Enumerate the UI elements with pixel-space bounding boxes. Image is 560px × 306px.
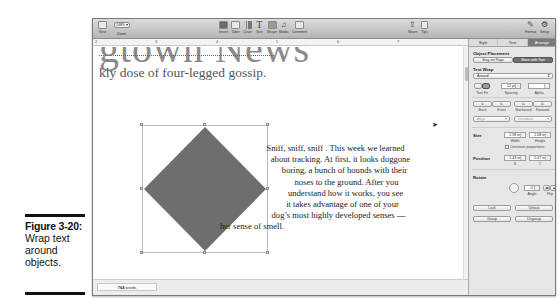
resize-handle-n[interactable] bbox=[203, 123, 206, 126]
object-placement-heading: Object Placement bbox=[473, 51, 509, 56]
text-fit-square-button[interactable] bbox=[474, 83, 482, 89]
ruler-tick: 5 bbox=[276, 39, 278, 44]
media-label: Media bbox=[279, 30, 289, 34]
section-divider bbox=[472, 127, 555, 128]
text-icon: T bbox=[256, 21, 262, 29]
body-line: it takes advantage of one of your bbox=[243, 199, 428, 210]
tab-style[interactable]: Style bbox=[469, 39, 498, 46]
ruler-tick: 2 bbox=[95, 39, 97, 44]
chevron-updown-icon: ⇕ bbox=[547, 74, 550, 78]
resize-handle-se[interactable] bbox=[266, 251, 269, 254]
size-heading: Size bbox=[473, 133, 482, 138]
tips-button[interactable]: Tips bbox=[421, 21, 428, 34]
pages-window: View 248% ▾ Zoom Insert Table Chart T Te… bbox=[92, 18, 556, 296]
mouse-pointer-icon: ➤ bbox=[432, 121, 438, 129]
setup-label: Setup bbox=[540, 30, 549, 34]
text-wrap-select[interactable]: Around ⇕ bbox=[473, 73, 553, 79]
section-divider bbox=[472, 169, 555, 170]
table-icon bbox=[231, 21, 240, 29]
document-canvas[interactable]: gtown News kly dose of four-legged gossi… bbox=[93, 47, 468, 279]
resize-handle-ne[interactable] bbox=[266, 123, 269, 126]
tab-text[interactable]: Text bbox=[498, 39, 527, 46]
bring-forward-button[interactable]: ⧉ bbox=[533, 101, 552, 107]
ungroup-button[interactable]: Ungroup bbox=[515, 216, 553, 222]
distribute-value: Distribute bbox=[518, 117, 533, 121]
chevron-down-icon: ▾ bbox=[547, 117, 549, 121]
unlock-button[interactable]: Unlock bbox=[515, 205, 553, 211]
body-line: her sense of smell. bbox=[220, 221, 428, 232]
front-label: Front bbox=[492, 108, 511, 112]
format-label: Format bbox=[525, 30, 536, 34]
ruler-tick: 4 bbox=[216, 39, 218, 44]
insert-button[interactable]: Insert bbox=[219, 21, 228, 34]
body-line: dog’s most highly developed senses — bbox=[243, 210, 428, 221]
chevron-down-icon: ▾ bbox=[505, 117, 507, 121]
send-backward-button[interactable]: ⧉ bbox=[514, 101, 533, 107]
distribute-select[interactable]: Distribute ▾ bbox=[514, 116, 552, 122]
body-line: boring, a bunch of hounds with their bbox=[243, 165, 428, 176]
move-with-text-button[interactable]: Move with Text bbox=[513, 57, 553, 63]
share-icon: ⇧ bbox=[409, 21, 416, 29]
resize-handle-s[interactable] bbox=[203, 251, 206, 254]
rotate-knob[interactable] bbox=[509, 183, 519, 193]
format-button[interactable]: ✎ Format bbox=[525, 21, 536, 34]
resize-handle-sw[interactable] bbox=[140, 251, 143, 254]
tab-arrange[interactable]: Arrange bbox=[528, 39, 556, 46]
body-line: Sniff, sniff, sniff . This week we learn… bbox=[243, 143, 428, 154]
zoom-label: Zoom bbox=[117, 32, 126, 36]
paintbrush-icon: ✎ bbox=[527, 21, 534, 29]
word-count[interactable]: 764 words bbox=[97, 283, 157, 291]
constrain-proportions-checkbox[interactable] bbox=[505, 145, 509, 149]
send-to-back-button[interactable]: ⧉ bbox=[473, 101, 492, 107]
alpha-field[interactable] bbox=[528, 83, 550, 89]
spellcheck-underline bbox=[99, 55, 274, 56]
comment-button[interactable]: Comment bbox=[292, 21, 307, 34]
body-text-block[interactable]: Sniff, sniff, sniff . This week we learn… bbox=[243, 143, 428, 233]
media-button[interactable]: ♫ Media bbox=[279, 21, 289, 34]
position-y-field[interactable]: 5.67 in bbox=[529, 155, 551, 161]
resize-handle-w[interactable] bbox=[140, 187, 143, 190]
width-label: Width bbox=[504, 139, 526, 143]
spacing-label: Spacing bbox=[501, 91, 521, 95]
height-field[interactable]: 2.08 in bbox=[529, 132, 551, 138]
shape-button[interactable]: Shape bbox=[267, 21, 277, 34]
text-fit-contour-button[interactable] bbox=[482, 83, 490, 89]
flip-vertical-button[interactable]: ▴ bbox=[550, 185, 556, 191]
format-inspector: Style Text Arrange Object Placement Stay… bbox=[468, 39, 556, 296]
chart-button[interactable]: Chart bbox=[243, 21, 252, 34]
back-label: Back bbox=[473, 108, 492, 112]
rotate-heading: Rotate bbox=[473, 175, 486, 180]
gear-icon: ⚙ bbox=[541, 21, 548, 29]
width-field[interactable]: 2.98 in bbox=[504, 132, 526, 138]
word-count-label: words bbox=[126, 285, 137, 290]
forward-label: Forward bbox=[533, 108, 552, 112]
text-wrap-heading: Text Wrap bbox=[473, 67, 493, 72]
resize-handle-nw[interactable] bbox=[140, 123, 143, 126]
align-value: Align bbox=[477, 117, 485, 121]
zoom-select[interactable]: 248% ▾ bbox=[114, 22, 130, 28]
text-button[interactable]: T Text bbox=[256, 21, 262, 34]
caption-line-1: Wrap text bbox=[25, 232, 85, 244]
position-x-field[interactable]: 2.43 in bbox=[504, 155, 526, 161]
align-select[interactable]: Align ▾ bbox=[473, 116, 510, 122]
tips-icon bbox=[421, 21, 428, 29]
setup-button[interactable]: ⚙ Setup bbox=[540, 21, 549, 34]
word-count-value: 764 bbox=[118, 285, 125, 290]
newsletter-subtitle[interactable]: kly dose of four-legged gossip. bbox=[99, 65, 266, 81]
caption-line-2: around bbox=[25, 244, 85, 256]
ruler[interactable]: 2 3 4 5 6 7 bbox=[93, 39, 468, 46]
table-button[interactable]: Table bbox=[231, 21, 240, 34]
view-button[interactable]: View bbox=[98, 21, 107, 34]
share-button[interactable]: ⇧ Share bbox=[408, 21, 417, 34]
lock-button[interactable]: Lock bbox=[473, 205, 511, 211]
chart-icon bbox=[243, 21, 252, 29]
bring-to-front-button[interactable]: ⧉ bbox=[492, 101, 511, 107]
group-button[interactable]: Group bbox=[473, 216, 511, 222]
position-x-label: X bbox=[504, 162, 526, 166]
flip-horizontal-button[interactable]: ◂▸ bbox=[543, 185, 550, 191]
flip-label: Flip bbox=[543, 192, 556, 196]
spacing-field[interactable]: 12 pt bbox=[501, 83, 521, 89]
angle-field[interactable]: 0° bbox=[524, 185, 540, 191]
stay-on-page-button[interactable]: Stay on Page bbox=[473, 57, 513, 63]
height-label: Height bbox=[529, 139, 551, 143]
